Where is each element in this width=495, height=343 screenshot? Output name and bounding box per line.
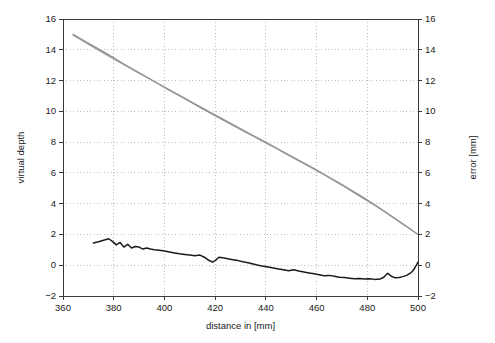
chart-figure: virtual depth error [mm] distance in [mm… [0, 0, 495, 343]
plot-canvas [0, 0, 495, 343]
